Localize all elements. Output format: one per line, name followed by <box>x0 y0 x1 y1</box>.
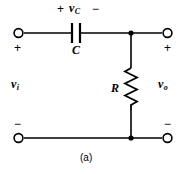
output-voltage-label: vo <box>158 78 168 92</box>
capacitor-voltage-subscript: C <box>74 7 80 16</box>
junction-dot-top <box>128 30 133 35</box>
input-terminal-plus-label: + <box>14 42 21 54</box>
output-voltage-subscript: o <box>163 83 167 92</box>
circuit-figure: + vC − C R vi vo + + − − (a) <box>0 0 184 174</box>
input-voltage-subscript: i <box>16 83 19 92</box>
capacitor-voltage-label: vC <box>69 2 80 16</box>
terminal-output-positive[interactable] <box>163 29 172 38</box>
junction-dot-bottom <box>128 135 133 140</box>
circuit-schematic <box>0 0 184 174</box>
figure-caption: (a) <box>80 153 92 163</box>
capacitor-polarity-minus-label: − <box>92 3 99 15</box>
capacitor-polarity-plus-label: + <box>57 3 64 15</box>
terminal-input-negative[interactable] <box>14 134 23 143</box>
input-terminal-minus-label: − <box>14 118 21 130</box>
capacitor-name-label: C <box>72 44 80 56</box>
terminal-input-positive[interactable] <box>14 29 23 38</box>
resistor-name-label: R <box>111 82 119 94</box>
output-terminal-plus-label: + <box>164 42 171 54</box>
input-voltage-label: vi <box>11 78 19 92</box>
resistor-symbol <box>125 68 137 110</box>
output-terminal-minus-label: − <box>164 118 171 130</box>
terminal-output-negative[interactable] <box>163 134 172 143</box>
